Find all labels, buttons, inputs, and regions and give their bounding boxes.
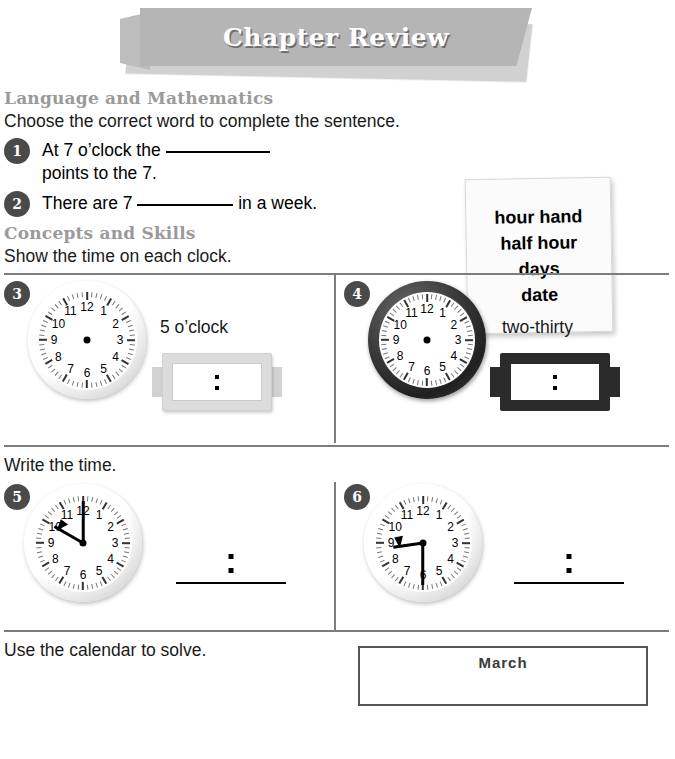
clock-5-minute-hand <box>82 501 85 543</box>
clock-number-4: 4 <box>107 552 114 566</box>
word-bank-option-0[interactable]: hour hand <box>494 204 582 230</box>
clock-number-4: 4 <box>112 350 119 364</box>
analog-clock-4[interactable]: 121234567891011 <box>368 281 486 399</box>
banner-body: Chapter Review <box>140 8 532 66</box>
calendar-title: March <box>360 654 646 671</box>
clock-6-center-dot <box>420 540 427 547</box>
answer-6-colon-top <box>567 554 572 559</box>
question-number-badge-5: 5 <box>4 484 30 510</box>
clock-number-5: 5 <box>100 362 107 376</box>
answer-line-6[interactable] <box>514 540 624 584</box>
clock-number-3: 3 <box>112 536 119 550</box>
answer-6-colon-bottom <box>567 568 572 573</box>
answer-5-colon-bottom <box>229 568 234 573</box>
clock-number-7: 7 <box>408 360 415 374</box>
section-instruction-write-time: Write the time. <box>4 455 675 476</box>
clock-number-8: 8 <box>392 552 399 566</box>
calendar-section: Use the calendar to solve. March <box>0 640 675 661</box>
digital-clock-4[interactable] <box>490 353 620 411</box>
digital-3-colon-top <box>215 375 219 379</box>
digital-clock-3[interactable] <box>152 353 282 411</box>
answer-blank-1[interactable] <box>166 151 270 153</box>
calendar-box[interactable]: March <box>358 646 648 706</box>
clock-number-8: 8 <box>397 349 404 363</box>
answer-5-rule <box>176 582 286 584</box>
grid-divider-bottom <box>4 630 669 632</box>
answer-6-rule <box>514 582 624 584</box>
clock-number-11: 11 <box>405 306 417 320</box>
clock-number-7: 7 <box>404 564 411 578</box>
problem-row-56: 5 121234567891011 6 <box>0 482 675 630</box>
digital-4-screen[interactable] <box>510 363 600 401</box>
clock-number-2: 2 <box>107 520 114 534</box>
clock-number-12: 12 <box>420 302 433 316</box>
analog-clock-5[interactable]: 121234567891011 <box>24 484 142 602</box>
clock-number-12: 12 <box>416 504 429 518</box>
clock-number-12: 12 <box>80 300 93 314</box>
question-number-badge-6: 6 <box>344 484 370 510</box>
digital-4-colon-top <box>553 375 557 379</box>
clock-number-7: 7 <box>64 564 71 578</box>
answer-line-5[interactable] <box>176 540 286 584</box>
clock-number-9: 9 <box>48 536 55 550</box>
question-2-text-after: in a week. <box>238 193 317 213</box>
section-instruction-calendar: Use the calendar to solve. <box>4 640 206 660</box>
clock-number-9: 9 <box>393 333 400 347</box>
clock-number-11: 11 <box>64 304 76 318</box>
question-number-badge-1: 1 <box>4 138 30 164</box>
clock-3-center-dot <box>84 337 91 344</box>
clock-number-6: 6 <box>424 364 431 378</box>
time-label-4: two-thirty <box>502 317 573 338</box>
problem-cell-5: 5 121234567891011 <box>0 482 334 630</box>
clock-number-1: 1 <box>439 306 446 320</box>
question-text-1: At 7 o’clock the points to the 7. <box>42 138 270 185</box>
grid-divider-middle <box>4 445 669 447</box>
clock-number-3: 3 <box>117 333 124 347</box>
clock-number-10: 10 <box>52 317 65 331</box>
clock-5-center-dot <box>80 540 87 547</box>
question-text-2: There are 7 in a week. <box>42 191 317 215</box>
answer-blank-2[interactable] <box>137 204 233 206</box>
clock-number-4: 4 <box>451 349 458 363</box>
clock-number-5: 5 <box>439 360 446 374</box>
question-1-text-before: At 7 o’clock the <box>42 140 161 160</box>
clock-number-2: 2 <box>447 520 454 534</box>
question-number-badge-3: 3 <box>4 281 30 307</box>
clock-number-5: 5 <box>96 564 103 578</box>
problem-cell-6: 6 121234567891011 <box>334 482 668 630</box>
section-instruction-language: Choose the correct word to complete the … <box>4 111 675 132</box>
clock-number-1: 1 <box>100 304 107 318</box>
clock-number-3: 3 <box>452 536 459 550</box>
clock-6-minute-hand <box>422 543 425 585</box>
word-bank-option-1[interactable]: half hour <box>500 230 577 255</box>
digital-3-colon-bottom <box>215 386 219 390</box>
clock-number-9: 9 <box>51 333 58 347</box>
question-number-badge-4: 4 <box>344 281 370 307</box>
clock-number-1: 1 <box>436 508 443 522</box>
problem-cell-3: 3 121234567891011 5 o’clock <box>0 275 334 445</box>
clock-number-6: 6 <box>84 366 91 380</box>
time-label-3: 5 o’clock <box>160 317 228 338</box>
clock-number-2: 2 <box>112 317 119 331</box>
clock-number-11: 11 <box>401 508 413 522</box>
problem-grid: 3 121234567891011 5 o’clock 4 <box>0 273 675 447</box>
question-1-text-after: points to the 7. <box>42 163 157 183</box>
chapter-banner: Chapter Review <box>0 0 675 88</box>
clock-number-1: 1 <box>96 508 103 522</box>
clock-number-7: 7 <box>67 362 74 376</box>
problem-row-34: 3 121234567891011 5 o’clock 4 <box>0 275 675 445</box>
analog-clock-6[interactable]: 121234567891011 <box>364 484 482 602</box>
answer-5-colon-top <box>229 554 234 559</box>
section-heading-language: Language and Mathematics <box>4 88 675 108</box>
clock-number-5: 5 <box>436 564 443 578</box>
page-title: Chapter Review <box>223 23 449 52</box>
problem-cell-4: 4 121234567891011 two-thirty <box>334 275 668 445</box>
clock-number-2: 2 <box>451 318 458 332</box>
digital-3-screen[interactable] <box>172 363 262 401</box>
clock-number-8: 8 <box>55 350 62 364</box>
digital-4-colon-bottom <box>553 386 557 390</box>
analog-clock-3[interactable]: 121234567891011 <box>28 281 146 399</box>
clock-number-3: 3 <box>455 333 462 347</box>
clock-number-4: 4 <box>447 552 454 566</box>
clock-number-6: 6 <box>80 568 87 582</box>
